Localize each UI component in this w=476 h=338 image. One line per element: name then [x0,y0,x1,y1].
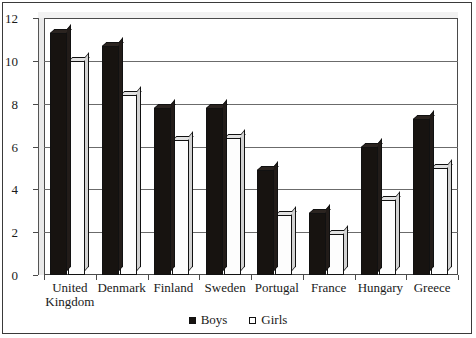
bar-side-face [274,161,278,271]
bar-boys-0 [50,33,67,275]
x-tick-mark [303,275,304,280]
bar-side-face [241,129,245,271]
x-tick-label: Hungary [358,281,404,295]
x-tick-label: Denmark [97,281,145,295]
bar-side-face [85,52,89,271]
bar-side-face [171,99,175,271]
y-tick-label: 4 [12,183,19,196]
bar-side-face [137,86,141,271]
bar-boys-3 [206,108,223,275]
chart-legend: BoysGirls [3,311,473,328]
y-tick-label: 0 [12,269,19,282]
x-tick-mark [251,275,252,280]
bar-front-face [413,119,430,275]
x-tick-label: Portugal [255,281,299,295]
x-tick-mark [355,275,356,280]
bar-boys-4 [257,170,274,275]
bar-boys-5 [309,213,326,275]
y-tick-label: 6 [12,140,19,153]
bar-front-face [154,108,171,275]
bar-front-face [361,147,378,276]
x-tick-label: Sweden [205,281,246,295]
y-tick-label: 12 [5,12,18,25]
x-tick-mark [44,275,45,280]
x-tick-label: Greece [414,281,451,295]
bar-side-face [430,110,434,271]
bar-side-face [189,131,193,271]
bar-boys-6 [361,147,378,276]
y-tick-mark [33,275,38,276]
x-tick-label: France [311,281,346,295]
legend-entry-girls: Girls [249,311,287,328]
x-tick-mark [199,275,200,280]
legend-label: Boys [201,312,228,328]
bar-front-face [257,170,274,275]
bar-side-face [67,24,71,271]
bar-side-face [344,226,348,271]
x-tick-label: United Kingdom [45,281,94,309]
bar-boys-2 [154,108,171,275]
x-tick-label: Finland [154,281,194,295]
bar-front-face [206,108,223,275]
bar-front-face [50,33,67,275]
plot-area [44,18,458,275]
bar-boys-1 [102,46,119,275]
chart-frame: 024681012 United KingdomDenmarkFinlandSw… [2,2,472,334]
y-tick-label: 2 [12,226,19,239]
bar-side-face [396,191,400,271]
bar-front-face [309,213,326,275]
bar-side-face [378,138,382,271]
bar-front-face [102,46,119,275]
bar-side-face [326,204,330,271]
bar-side-face [223,99,227,271]
bar-side-face [448,159,452,271]
x-tick-mark [148,275,149,280]
x-tick-mark [458,275,459,280]
bar-side-face [292,206,296,271]
empty-square-icon [249,317,256,324]
bar-boys-7 [413,119,430,275]
filled-square-icon [189,317,196,324]
legend-entry-boys: Boys [189,311,228,328]
bar-side-face [119,37,123,271]
y-tick-label: 10 [5,54,18,67]
legend-label: Girls [261,312,287,328]
x-tick-mark [406,275,407,280]
y-tick-label: 8 [12,97,19,110]
